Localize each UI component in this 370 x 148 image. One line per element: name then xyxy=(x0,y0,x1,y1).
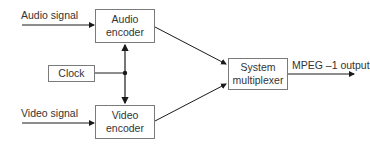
system-multiplexer-block: System multiplexer xyxy=(228,58,288,90)
audio-signal-label: Audio signal xyxy=(21,9,78,21)
system-multiplexer-line1: System xyxy=(240,61,275,74)
video-encoder-line1: Video xyxy=(112,109,139,122)
audio-encoder-line2: encoder xyxy=(106,26,144,39)
audio-encoder-line1: Audio xyxy=(112,13,139,26)
output-label: MPEG –1 output xyxy=(292,59,370,71)
clock-label: Clock xyxy=(58,67,84,80)
video-to-mux-arrow xyxy=(155,84,226,121)
video-signal-label: Video signal xyxy=(21,107,78,119)
audio-encoder-block: Audio encoder xyxy=(95,9,155,43)
audio-to-mux-arrow xyxy=(155,27,226,64)
clock-block: Clock xyxy=(48,65,95,82)
video-encoder-line2: encoder xyxy=(106,122,144,135)
system-multiplexer-line2: multiplexer xyxy=(233,74,284,87)
video-encoder-block: Video encoder xyxy=(95,105,155,139)
